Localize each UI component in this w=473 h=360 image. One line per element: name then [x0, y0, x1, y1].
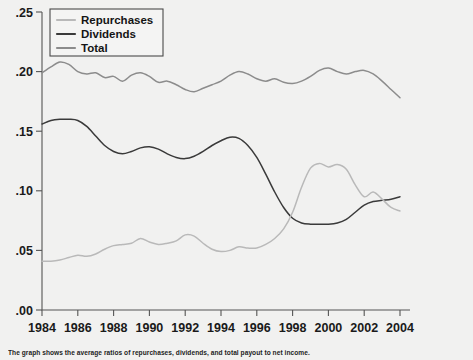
x-axis-tick-label: 1994 [207, 321, 235, 335]
y-axis-tick-label: .25 [16, 6, 33, 20]
y-axis-tick-label: .05 [16, 244, 33, 258]
figure-caption: The graph shows the average ratios of re… [8, 349, 468, 357]
x-axis-tick-label: 1990 [135, 321, 163, 335]
series-line-total [42, 62, 400, 98]
chart-legend: RepurchasesDividendsTotal [50, 9, 163, 56]
x-axis-tick-label: 2002 [350, 321, 378, 335]
x-axis-tick-label: 2004 [386, 321, 414, 335]
x-axis-tick-label: 1988 [100, 321, 128, 335]
y-axis-tick-label: .20 [16, 65, 33, 79]
y-axis-tick-label: .00 [16, 304, 33, 318]
series-line-dividends [42, 119, 400, 224]
x-axis-tick-label: 1996 [243, 321, 271, 335]
x-axis-tick-label: 1992 [171, 321, 199, 335]
x-axis-tick-label: 1986 [64, 321, 92, 335]
legend-label-dividends: Dividends [81, 28, 136, 40]
series-line-repurchases [42, 163, 400, 261]
x-axis-tick-label: 1998 [279, 321, 307, 335]
y-axis-tick-label: .10 [16, 184, 33, 198]
y-axis-tick-label: .15 [16, 125, 33, 139]
x-axis-tick-label: 1984 [28, 321, 56, 335]
legend-label-repurchases: Repurchases [81, 14, 153, 26]
legend-label-total: Total [81, 42, 108, 54]
chart-figure: .25.20.15.10.05.001984198619881990199219… [0, 0, 473, 360]
chart-series-group [42, 62, 400, 261]
x-axis-tick-label: 2000 [314, 321, 342, 335]
line-chart: .25.20.15.10.05.001984198619881990199219… [0, 0, 473, 360]
